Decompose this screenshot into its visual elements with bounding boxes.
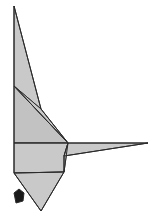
lower-body-panel [14,143,68,173]
figure-canvas [0,0,153,222]
